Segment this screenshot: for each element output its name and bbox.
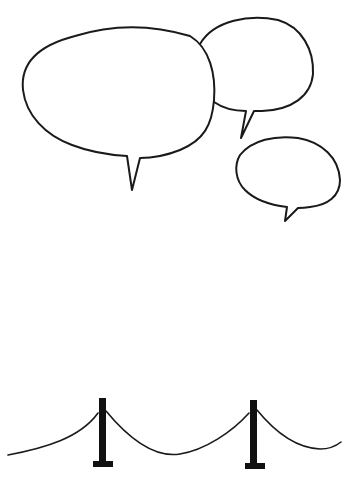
rope-middle <box>106 411 249 455</box>
stanchion-post-left <box>93 398 113 467</box>
rope-right <box>257 410 341 449</box>
speech-bubble-medium <box>200 18 313 138</box>
stanchion-post-right <box>245 400 265 469</box>
rope-left <box>8 413 98 455</box>
rope-barrier <box>8 410 341 455</box>
illustration-canvas <box>0 0 349 497</box>
speech-bubble-large <box>23 27 215 190</box>
speech-bubble-small <box>236 137 340 221</box>
